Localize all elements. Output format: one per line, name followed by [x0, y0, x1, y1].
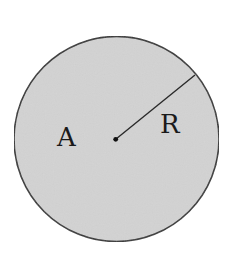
- center-point: [113, 137, 118, 142]
- radius-label: R: [160, 109, 181, 139]
- diagram-svg: A R: [0, 0, 232, 265]
- area-label: A: [56, 122, 77, 152]
- circle-diagram: A R: [0, 0, 232, 265]
